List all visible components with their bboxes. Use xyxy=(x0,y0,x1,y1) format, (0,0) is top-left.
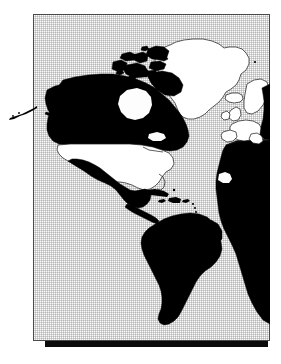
map-canvas-clip: World map with the Americas at centre; C… xyxy=(33,14,270,341)
british-isles-great-britain xyxy=(229,107,241,121)
iceland-outline xyxy=(225,93,243,103)
world-map-svg: World map with the Americas at centre; C… xyxy=(33,14,270,341)
africa xyxy=(216,139,270,324)
puerto-rico xyxy=(182,199,190,203)
hispaniola xyxy=(168,197,181,203)
bahamas-speck xyxy=(173,189,175,191)
arctic-islet-speck xyxy=(254,61,256,63)
lesser-antilles-b xyxy=(194,207,196,209)
jamaica xyxy=(158,199,166,203)
map-panel-shadow xyxy=(45,341,268,347)
aleutian-islet-b xyxy=(18,112,20,114)
british-isles-ireland xyxy=(221,111,230,120)
arctic-islet-d xyxy=(116,70,124,75)
lesser-antilles-c xyxy=(195,211,197,213)
lesser-antilles-a xyxy=(192,203,194,205)
iberian-peninsula xyxy=(221,130,237,142)
aleutian-islet-a xyxy=(12,115,14,117)
caribbean-islands xyxy=(144,189,197,213)
yucatan-peninsula xyxy=(133,191,145,202)
figure-root: World map with the Americas at centre; C… xyxy=(0,0,281,364)
map-panel[interactable]: World map with the Americas at centre; C… xyxy=(33,14,270,341)
